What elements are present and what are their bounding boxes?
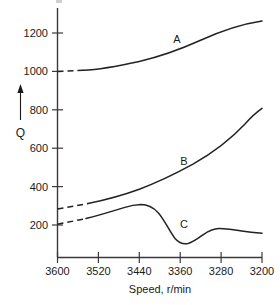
series-a-label: A: [173, 33, 181, 45]
x-tick-label-3200: 3200: [250, 265, 274, 277]
chart-svg: 1200 1000 800 600 400 200 3600 3520 3440…: [0, 0, 280, 305]
y-tick-label-200: 200: [30, 219, 48, 231]
y-tick-label-1000: 1000: [24, 65, 48, 77]
series-curve-b: B: [58, 108, 263, 209]
x-tick-label-3440: 3440: [127, 265, 151, 277]
series-a-line: [83, 21, 262, 70]
series-b-label: B: [180, 155, 187, 167]
series-c-dashed-lead: [58, 219, 87, 225]
x-tick-label-3520: 3520: [86, 265, 110, 277]
series-curve-a: A: [58, 21, 263, 71]
series-c-label: C: [180, 218, 188, 230]
y-tick-label-1200: 1200: [24, 27, 48, 39]
y-tick-label-400: 400: [30, 181, 48, 193]
x-axis-tick-labels: 3600 3520 3440 3360 3280 3200: [45, 265, 274, 277]
series-c-line: [86, 205, 262, 244]
top-edge-artifact: [56, 0, 62, 3]
y-axis-label-group: Q: [16, 84, 25, 140]
x-axis-title: Speed, r/min: [129, 283, 191, 295]
series-a-dashed-lead: [58, 70, 84, 71]
y-axis-title: Q: [16, 126, 25, 140]
x-tick-label-3280: 3280: [209, 265, 233, 277]
x-tick-label-3360: 3360: [168, 265, 192, 277]
x-tick-label-3600: 3600: [45, 265, 69, 277]
series-b-dashed-lead: [58, 204, 89, 210]
y-tick-label-600: 600: [30, 142, 48, 154]
y-axis-tick-labels: 1200 1000 800 600 400 200: [24, 27, 48, 231]
chart-container: 1200 1000 800 600 400 200 3600 3520 3440…: [0, 0, 280, 305]
series-curve-c: C: [58, 205, 263, 244]
up-arrow-head-icon: [17, 84, 23, 93]
y-tick-label-800: 800: [30, 104, 48, 116]
series-b-line: [88, 108, 262, 203]
